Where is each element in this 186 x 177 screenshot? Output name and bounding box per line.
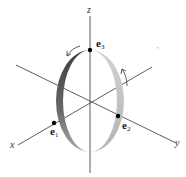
e1-label: e1	[50, 126, 58, 139]
y-axis-label: y	[175, 138, 179, 148]
z-axis-label: z	[87, 5, 91, 15]
y-axis	[16, 65, 176, 143]
diagram-svg	[0, 0, 186, 177]
x-axis-label: x	[10, 140, 14, 150]
e3-label: e3	[96, 38, 104, 51]
diagram: z x y e3 e1 e2 '	[0, 0, 186, 177]
stray-mark: '	[157, 47, 158, 55]
x-axis	[18, 67, 152, 145]
point-e2	[116, 114, 120, 118]
point-e3	[88, 48, 92, 52]
ring-light-half	[90, 50, 124, 152]
e2-label: e2	[122, 120, 130, 133]
ring-dark-half	[56, 50, 90, 152]
